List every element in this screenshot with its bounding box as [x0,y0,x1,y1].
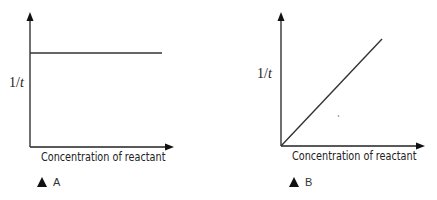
x-axis-arrow-icon [165,144,174,151]
y-label-variable: t [20,75,24,90]
y-axis-arrow-icon [27,12,34,21]
triangle-marker-icon [37,177,47,187]
graph-b-plot [220,0,437,200]
y-axis-label: 1/t [9,75,24,91]
figure-caption-b: B [289,176,312,188]
caption-label: B [305,176,312,188]
x-axis-arrow-icon [416,143,425,150]
graph-panel-a: 1/t Concentration of reactant A [0,0,220,200]
caption-label: A [53,176,60,188]
graph-a-plot [0,0,220,200]
y-label-variable: t [268,66,272,81]
y-axis-label: 1/t [257,66,272,82]
figure-caption-a: A [37,176,60,188]
triangle-marker-icon [289,177,299,187]
x-axis-label: Concentration of reactant [41,149,165,164]
y-label-prefix: 1/ [257,66,268,81]
x-axis-label: Concentration of reactant [292,148,416,163]
y-axis-arrow-icon [278,12,285,21]
graph-panel-b: 1/t Concentration of reactant B [220,0,437,200]
y-label-prefix: 1/ [9,75,20,90]
speck-mark [338,115,339,117]
data-line-proportional [281,39,382,146]
